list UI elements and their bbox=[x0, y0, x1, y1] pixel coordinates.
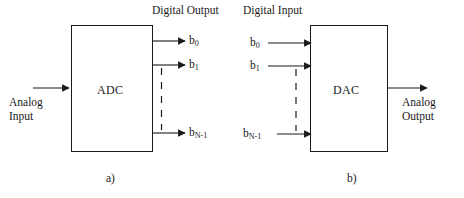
dac-input-bit-n-1: bN-1 bbox=[243, 127, 261, 141]
adc-output-bit-0: b0 bbox=[189, 34, 199, 48]
dac-analog-output-label: Analog Output bbox=[402, 96, 436, 123]
adc-caption: a) bbox=[106, 172, 115, 184]
adc-output-bit-n-1: bN-1 bbox=[189, 126, 207, 140]
dac-input-bit-0: b0 bbox=[250, 36, 260, 50]
dac-digital-input-header: Digital Input bbox=[243, 4, 302, 17]
dac-block-label: DAC bbox=[333, 83, 359, 98]
figure-canvas: Digital Output ADC Analog Input b0 b1 bN… bbox=[0, 0, 464, 198]
adc-output-bit-1: b1 bbox=[189, 58, 199, 72]
dac-caption: b) bbox=[347, 172, 357, 184]
adc-block-label: ADC bbox=[97, 83, 123, 98]
adc-analog-input-label: Analog Input bbox=[9, 96, 43, 123]
connector-layer bbox=[0, 0, 464, 198]
dac-input-bit-1: b1 bbox=[250, 59, 260, 73]
adc-digital-output-header: Digital Output bbox=[152, 4, 219, 17]
